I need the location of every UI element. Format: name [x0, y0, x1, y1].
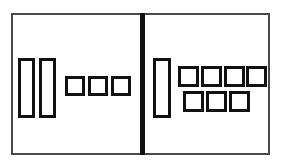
- tall-rectangle: [39, 58, 56, 118]
- diagram-canvas: [0, 0, 281, 168]
- small-square: [201, 66, 222, 87]
- small-square: [206, 91, 227, 112]
- small-square: [229, 91, 250, 112]
- small-square: [246, 66, 267, 87]
- small-square: [65, 76, 85, 96]
- tall-rectangle: [18, 58, 35, 118]
- small-square: [183, 91, 204, 112]
- small-square: [178, 66, 199, 87]
- small-square: [224, 66, 245, 87]
- tall-rectangle: [153, 58, 171, 118]
- small-square: [88, 76, 108, 96]
- small-square: [111, 76, 131, 96]
- center-divider: [140, 13, 145, 155]
